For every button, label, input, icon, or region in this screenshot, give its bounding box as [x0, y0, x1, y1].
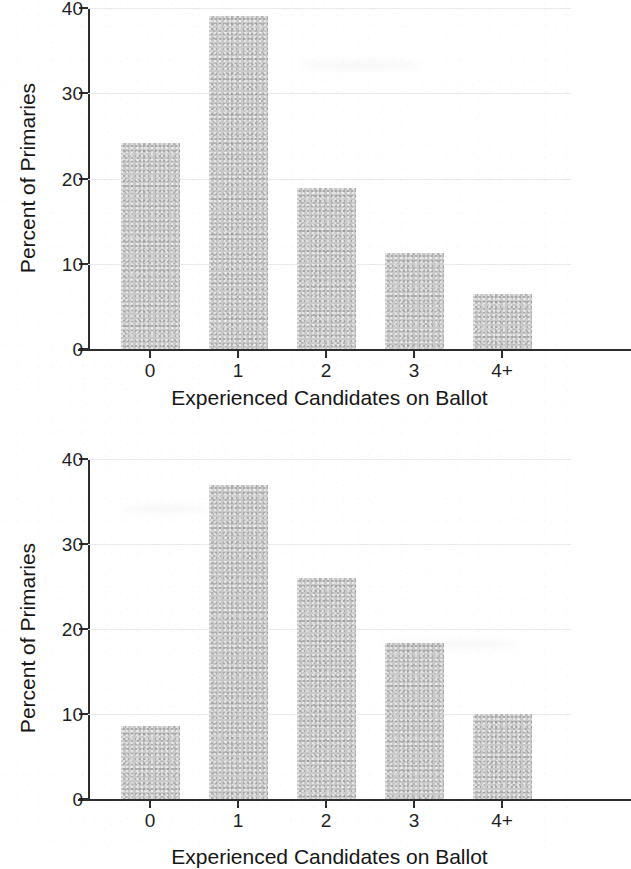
x-tick-mark: [501, 349, 503, 358]
x-tick-label: 2: [321, 361, 332, 380]
y-axis-label-bottom: Percent of Primaries: [16, 528, 40, 748]
x-axis-line-bottom: [78, 799, 631, 801]
x-tick-label: 4+: [491, 361, 513, 380]
x-tick-mark: [413, 799, 415, 808]
x-tick-label: 4+: [491, 811, 513, 830]
x-tick-label: 3: [409, 361, 420, 380]
y-axis-line-top: [88, 8, 90, 351]
x-axis-label-top: Experienced Candidates on Ballot: [88, 386, 571, 410]
y-tick-label: 30: [62, 84, 83, 103]
bar-top-3: [385, 253, 444, 349]
bar-top-0: [121, 143, 180, 349]
x-tick-mark: [501, 799, 503, 808]
x-tick-mark: [237, 349, 239, 358]
y-axis-label-top: Percent of Primaries: [16, 68, 40, 288]
x-tick-mark: [149, 349, 151, 358]
bar-bottom-0: [121, 726, 180, 799]
bar-bottom-1: [209, 485, 268, 800]
bar-bottom-2: [297, 578, 356, 799]
plot-area-bottom: 010203040 01234+: [88, 459, 571, 799]
bar-top-4plus: [473, 294, 532, 349]
bar-top-1: [209, 16, 268, 349]
x-axis-label-bottom: Experienced Candidates on Ballot: [88, 845, 571, 869]
y-tick-label: 10: [62, 705, 83, 724]
x-tick-mark: [149, 799, 151, 808]
gridline: [88, 8, 571, 9]
x-tick-mark: [325, 349, 327, 358]
y-tick-label: 10: [62, 254, 83, 273]
gridline: [88, 93, 571, 94]
gridline: [88, 544, 571, 545]
y-axis-line-bottom: [88, 459, 90, 801]
y-tick-label: 30: [62, 535, 83, 554]
bar-bottom-3: [385, 643, 444, 799]
gridline: [88, 459, 571, 460]
x-tick-label: 1: [233, 811, 244, 830]
chart-panel-bottom: Percent of Primaries 010203040 01234+ Ex…: [0, 430, 571, 859]
x-tick-mark: [325, 799, 327, 808]
x-tick-label: 1: [233, 361, 244, 380]
y-tick-label: 20: [62, 169, 83, 188]
y-tick-label: 0: [72, 340, 83, 359]
chart-panel-top: Percent of Primaries 010203040 01234+ Ex…: [0, 0, 571, 430]
y-tick-label: 40: [62, 0, 83, 18]
bar-bottom-4plus: [473, 714, 532, 799]
bar-top-2: [297, 188, 356, 349]
x-tick-label: 2: [321, 811, 332, 830]
x-axis-line-top: [78, 349, 631, 351]
x-tick-label: 0: [145, 361, 156, 380]
x-tick-label: 3: [409, 811, 420, 830]
x-tick-mark: [237, 799, 239, 808]
y-tick-label: 0: [72, 790, 83, 809]
x-tick-label: 0: [145, 811, 156, 830]
x-tick-mark: [413, 349, 415, 358]
y-tick-label: 20: [62, 620, 83, 639]
y-tick-label: 40: [62, 450, 83, 469]
plot-area-top: 010203040 01234+: [88, 8, 571, 349]
